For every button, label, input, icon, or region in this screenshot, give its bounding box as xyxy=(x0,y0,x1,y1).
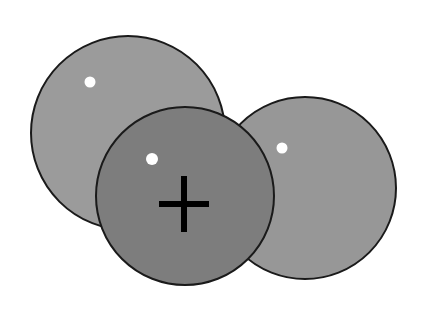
disc-front-center xyxy=(96,107,274,285)
figure-canvas: Three overlapping gray discs with white … xyxy=(0,0,423,309)
overlapping-discs-figure xyxy=(0,0,423,309)
disc-mid-right-marker-dot xyxy=(277,143,288,154)
disc-front-center-marker-dot xyxy=(146,153,158,165)
disc-back-left-marker-dot xyxy=(85,77,96,88)
